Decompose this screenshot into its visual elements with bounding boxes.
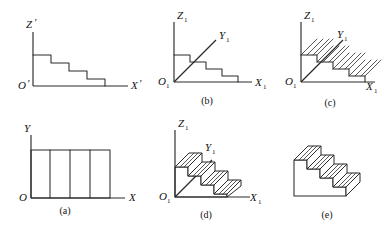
caption-c: (c) xyxy=(324,97,335,109)
step-profile-b xyxy=(174,55,238,82)
label-z1-d: Z xyxy=(178,117,185,129)
label-z1-c-sub: 1 xyxy=(311,16,315,24)
label-x1-b-sub: 1 xyxy=(263,83,267,91)
label-y1-c-sub: 1 xyxy=(344,35,348,43)
panel-top-left: Z ′ O ′ X ′ xyxy=(18,16,142,91)
step-profile-elevation xyxy=(33,55,105,86)
label-x1-c-sub: 1 xyxy=(374,87,378,95)
label-x-prime: X xyxy=(130,79,139,91)
caption-d: (d) xyxy=(200,209,212,221)
label-x-prime-tick: ′ xyxy=(139,77,142,89)
staircase-construction-figure: Z ′ O ′ X ′ Z 1 Y 1 O 1 X 1 (b) xyxy=(0,0,390,240)
label-z1-c: Z xyxy=(304,9,311,21)
panel-b: Z 1 Y 1 O 1 X 1 (b) xyxy=(158,9,267,107)
panel-a: Y O X (a) xyxy=(19,122,137,217)
figure-root: Z ′ O ′ X ′ Z 1 Y 1 O 1 X 1 (b) xyxy=(0,0,390,240)
label-y1-b-sub: 1 xyxy=(226,36,230,44)
panel-c: Z 1 Y 1 O 1 X 1 (c) xyxy=(285,9,381,109)
label-x1-c: X xyxy=(365,80,374,92)
label-o-prime: O xyxy=(18,79,26,91)
axis-y1-b xyxy=(174,40,216,82)
label-z1-b-sub: 1 xyxy=(184,16,188,24)
label-o1-d: O xyxy=(159,190,167,202)
panel-e: (e) xyxy=(294,146,360,221)
label-x1-d-sub: 1 xyxy=(258,198,262,206)
label-z-prime: Z xyxy=(26,18,33,30)
label-o1-c: O xyxy=(285,75,293,87)
caption-b: (b) xyxy=(201,95,213,107)
label-z1-d-sub: 1 xyxy=(185,124,189,132)
label-y-a: Y xyxy=(24,122,32,134)
label-x1-b: X xyxy=(254,76,263,88)
label-o-a: O xyxy=(19,191,27,203)
label-o-prime-tick: ′ xyxy=(27,77,30,89)
label-x-a: X xyxy=(128,191,137,203)
label-z-prime-tick: ′ xyxy=(34,16,37,28)
label-o1-c-sub: 1 xyxy=(293,82,297,90)
label-o1-d-sub: 1 xyxy=(167,197,171,205)
label-o1-b-sub: 1 xyxy=(166,82,170,90)
caption-e: (e) xyxy=(321,209,332,221)
label-x1-d: X xyxy=(249,191,258,203)
panel-d: Z 1 Y 1 O 1 X 1 (d) xyxy=(159,117,262,221)
label-o1-b: O xyxy=(158,75,166,87)
label-z1-b: Z xyxy=(177,9,184,21)
label-y1-d-sub: 1 xyxy=(212,148,216,156)
caption-a: (a) xyxy=(59,205,70,217)
